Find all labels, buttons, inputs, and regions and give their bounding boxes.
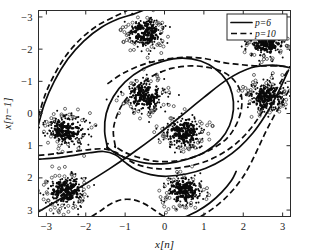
data-point (190, 188, 193, 191)
data-point (159, 95, 161, 97)
data-point (160, 106, 162, 108)
data-point (58, 182, 61, 185)
x-tick-label: −1 (120, 221, 131, 232)
data-point (265, 49, 268, 52)
data-point (256, 44, 259, 47)
data-point (198, 182, 200, 184)
y-tick-label: −3 (21, 12, 32, 23)
data-point (200, 180, 202, 182)
data-point (190, 147, 192, 149)
data-point (171, 144, 173, 146)
legend[interactable]: p=6p=10 (227, 14, 287, 40)
data-point (258, 92, 261, 95)
data-point (183, 177, 185, 179)
data-point (148, 39, 151, 42)
data-point (73, 184, 76, 187)
data-point (42, 194, 44, 196)
data-point (55, 125, 58, 128)
data-point (271, 60, 273, 62)
data-point (147, 89, 150, 92)
data-point (62, 138, 65, 141)
data-point (194, 121, 196, 123)
data-point (168, 177, 170, 179)
data-point (186, 200, 188, 202)
data-point (72, 123, 75, 126)
data-point (189, 140, 192, 143)
data-point (136, 104, 138, 106)
data-point (266, 43, 269, 46)
data-point (139, 100, 142, 103)
data-point (245, 43, 247, 45)
data-point (173, 129, 176, 132)
data-point (182, 184, 185, 187)
data-point (57, 121, 60, 124)
data-point (52, 185, 54, 187)
data-point (52, 132, 54, 134)
y-tick-label: 3 (27, 205, 32, 216)
data-point (167, 96, 169, 98)
data-point (143, 99, 146, 102)
data-point (77, 214, 79, 216)
data-point (134, 87, 137, 90)
data-point (181, 143, 183, 145)
y-tick-label: 2 (27, 172, 32, 183)
data-point (163, 182, 165, 184)
data-point (62, 130, 65, 133)
data-point (153, 47, 155, 49)
data-point (148, 111, 150, 113)
data-point (198, 133, 200, 135)
data-point (187, 141, 190, 144)
data-point (199, 146, 201, 148)
data-point (132, 84, 134, 86)
data-point (199, 195, 201, 197)
data-point (131, 96, 133, 98)
data-point (146, 27, 149, 30)
data-point (152, 27, 155, 30)
data-point (253, 91, 255, 93)
data-point (70, 112, 72, 114)
data-point (266, 79, 268, 81)
data-point (69, 137, 72, 140)
data-point (71, 127, 74, 130)
data-point (64, 117, 66, 119)
data-point (181, 124, 184, 127)
data-point (277, 49, 279, 51)
data-point (186, 182, 189, 185)
data-point (142, 91, 145, 94)
data-point (195, 202, 197, 204)
data-point (202, 198, 204, 200)
data-point (65, 125, 68, 128)
data-point (252, 44, 254, 46)
x-tick-label: 1 (201, 221, 206, 232)
data-point (87, 128, 89, 130)
data-point (256, 102, 259, 105)
data-point (256, 87, 258, 89)
data-point (193, 141, 195, 143)
data-point (132, 111, 134, 113)
data-point (59, 189, 62, 192)
data-point (54, 120, 56, 122)
data-point (265, 95, 268, 98)
data-point (64, 207, 66, 209)
data-point (54, 137, 56, 139)
data-point (160, 199, 162, 201)
data-point (63, 204, 65, 206)
data-point (199, 185, 201, 187)
data-point (184, 185, 187, 188)
data-point (133, 91, 136, 94)
data-point (151, 41, 153, 43)
data-point (68, 118, 70, 120)
data-point (260, 44, 263, 47)
data-point (155, 28, 157, 30)
data-point (138, 109, 140, 111)
data-point (144, 96, 147, 99)
data-point (82, 200, 84, 202)
data-point (162, 28, 164, 30)
data-point (190, 138, 193, 141)
data-point (84, 121, 86, 123)
data-point (181, 118, 183, 120)
data-point (106, 99, 108, 101)
data-point (177, 177, 179, 179)
data-point (147, 43, 149, 45)
data-point (188, 125, 191, 128)
